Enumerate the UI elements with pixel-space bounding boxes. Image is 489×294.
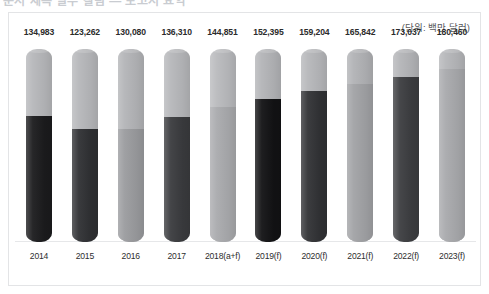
bar-fill bbox=[301, 91, 327, 243]
bar-column[interactable] bbox=[439, 49, 465, 242]
bar-column[interactable] bbox=[210, 49, 236, 242]
bar-column[interactable] bbox=[26, 49, 52, 242]
cropped-heading-text: 문서 제목 일부 잘림 — 보고서 요약 bbox=[3, 0, 489, 7]
bar-value-label: 134,983 bbox=[13, 27, 65, 37]
bar-value-label: 136,310 bbox=[151, 27, 203, 37]
bar-value-label: 123,262 bbox=[59, 27, 111, 37]
x-axis-label: 2023(f) bbox=[422, 251, 482, 261]
bar-column[interactable] bbox=[255, 49, 281, 242]
bar-column[interactable] bbox=[72, 49, 98, 242]
bar-value-label: 180,460 bbox=[426, 27, 478, 37]
bar-fill bbox=[393, 77, 419, 242]
bar-fill bbox=[26, 116, 52, 242]
bar-value-label: 165,842 bbox=[334, 27, 386, 37]
bar-column[interactable] bbox=[118, 49, 144, 242]
bar-fill bbox=[347, 84, 373, 242]
bar-fill bbox=[118, 129, 144, 242]
bar-value-label: 173,037 bbox=[380, 27, 432, 37]
bar-fill bbox=[164, 117, 190, 242]
bar-series: 134,9832014123,2622015130,0802016136,310… bbox=[9, 39, 482, 264]
chart-frame: (단위: 백만 달러) 134,9832014123,2622015130,08… bbox=[8, 12, 481, 286]
bar-value-label: 152,395 bbox=[242, 27, 294, 37]
bar-column[interactable] bbox=[393, 49, 419, 242]
plot-area: 134,9832014123,2622015130,0802016136,310… bbox=[9, 39, 482, 264]
bar-column[interactable] bbox=[347, 49, 373, 242]
bar-value-label: 130,080 bbox=[105, 27, 157, 37]
bar-fill bbox=[72, 129, 98, 242]
bar-column[interactable] bbox=[301, 49, 327, 242]
cropped-heading: 문서 제목 일부 잘림 — 보고서 요약 bbox=[0, 0, 489, 11]
bar-value-label: 144,851 bbox=[197, 27, 249, 37]
bar-column[interactable] bbox=[164, 49, 190, 242]
bar-fill bbox=[439, 69, 465, 242]
bar-fill bbox=[210, 107, 236, 242]
chart-page: 문서 제목 일부 잘림 — 보고서 요약 (단위: 백만 달러) 134,983… bbox=[0, 0, 489, 294]
bar-value-label: 159,204 bbox=[288, 27, 340, 37]
bar-fill bbox=[255, 99, 281, 242]
